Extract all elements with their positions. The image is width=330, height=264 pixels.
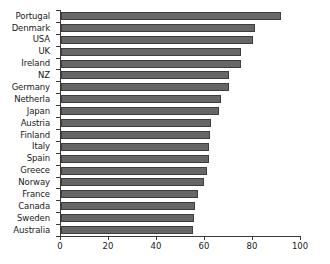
bar <box>61 60 241 68</box>
bar <box>61 36 253 44</box>
x-axis-tick-label: 0 <box>57 242 62 251</box>
bar-row <box>61 224 301 236</box>
bar <box>61 143 209 151</box>
bar-row <box>61 81 301 93</box>
y-axis-category-labels: PortugalDenmarkUSAUKIrelandNZGermanyNeth… <box>0 10 54 236</box>
bar-row <box>61 200 301 212</box>
y-axis-tick <box>56 224 60 225</box>
y-axis-label: USA <box>0 34 54 46</box>
bar <box>61 214 194 222</box>
bar <box>61 95 221 103</box>
y-axis-label: Norway <box>0 176 54 188</box>
bar-series <box>61 10 301 236</box>
y-axis-label: Japan <box>0 105 54 117</box>
y-axis-tick <box>56 117 60 118</box>
y-axis-tick <box>56 93 60 94</box>
bar <box>61 48 241 56</box>
x-axis-tick <box>156 236 157 240</box>
bar-row <box>61 188 301 200</box>
bar-row <box>61 22 301 34</box>
bar <box>61 190 198 198</box>
bar-row <box>61 176 301 188</box>
bar-row <box>61 93 301 105</box>
bar <box>61 107 219 115</box>
y-axis-tick <box>56 105 60 106</box>
y-axis-tick <box>56 165 60 166</box>
x-axis-tick <box>300 236 301 240</box>
y-axis-label: Greece <box>0 165 54 177</box>
bar-row <box>61 46 301 58</box>
bar-row <box>61 10 301 22</box>
bar-row <box>61 212 301 224</box>
y-axis-tick <box>56 153 60 154</box>
bar-row <box>61 69 301 81</box>
bar-row <box>61 153 301 165</box>
x-axis-tick <box>60 236 61 240</box>
bar <box>61 167 207 175</box>
x-axis-tick-label: 80 <box>247 242 258 251</box>
bar <box>61 119 211 127</box>
bar <box>61 226 193 234</box>
y-axis-tick <box>56 212 60 213</box>
x-axis-line <box>60 236 301 237</box>
y-axis-tick <box>56 177 60 178</box>
y-axis-label: NZ <box>0 69 54 81</box>
bar <box>61 71 229 79</box>
x-axis-tick <box>204 236 205 240</box>
bar <box>61 24 255 32</box>
y-axis-label: France <box>0 188 54 200</box>
bar-row <box>61 105 301 117</box>
y-axis-label: Finland <box>0 129 54 141</box>
y-axis-tick <box>56 200 60 201</box>
x-axis-tick-label: 40 <box>151 242 162 251</box>
y-axis-label: Australia <box>0 224 54 236</box>
y-axis-tick <box>56 236 60 237</box>
bar <box>61 12 281 20</box>
bar <box>61 202 195 210</box>
y-axis-label: Germany <box>0 81 54 93</box>
y-axis-tick <box>56 22 60 23</box>
y-axis-tick <box>56 81 60 82</box>
y-axis-tick <box>56 69 60 70</box>
x-axis-tick <box>252 236 253 240</box>
bar-row <box>61 58 301 70</box>
y-axis-label: Sweden <box>0 212 54 224</box>
bar-row <box>61 117 301 129</box>
bar <box>61 131 210 139</box>
y-axis-label: Portugal <box>0 10 54 22</box>
y-axis-tick <box>56 46 60 47</box>
y-axis-tick <box>56 10 60 11</box>
y-axis-label: Italy <box>0 141 54 153</box>
y-axis-label: Ireland <box>0 58 54 70</box>
bar-row <box>61 34 301 46</box>
bar-row <box>61 141 301 153</box>
y-axis-tick <box>56 188 60 189</box>
bar <box>61 83 229 91</box>
x-axis-tick-label: 60 <box>199 242 210 251</box>
y-axis-label: Denmark <box>0 22 54 34</box>
y-axis-label: Austria <box>0 117 54 129</box>
bar-chart: PortugalDenmarkUSAUKIrelandNZGermanyNeth… <box>0 0 330 264</box>
y-axis-tick <box>56 58 60 59</box>
y-axis-tick <box>56 129 60 130</box>
bar-row <box>61 165 301 177</box>
y-axis-label: Canada <box>0 200 54 212</box>
y-axis-tick <box>56 141 60 142</box>
plot-area <box>60 10 301 236</box>
x-axis-tick-label: 20 <box>103 242 114 251</box>
x-axis-tick <box>108 236 109 240</box>
y-axis-tick <box>56 34 60 35</box>
x-axis-tick-label: 100 <box>292 242 308 251</box>
bar <box>61 178 204 186</box>
y-axis-label: Spain <box>0 153 54 165</box>
y-axis-label: UK <box>0 46 54 58</box>
bar <box>61 155 209 163</box>
bar-row <box>61 129 301 141</box>
y-axis-label: Netherla <box>0 93 54 105</box>
